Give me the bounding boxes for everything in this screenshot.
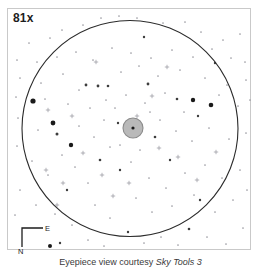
magnification-label: 81x <box>13 12 34 24</box>
caption-prefix: Eyepiece view courtesy <box>59 257 156 267</box>
eyepiece-view-panel: EN 81x Eyepiece view courtesy Sky Tools … <box>0 0 261 272</box>
caption: Eyepiece view courtesy Sky Tools 3 <box>0 256 261 268</box>
caption-source: Sky Tools 3 <box>156 257 202 267</box>
eyepiece-frame-border <box>7 8 251 250</box>
